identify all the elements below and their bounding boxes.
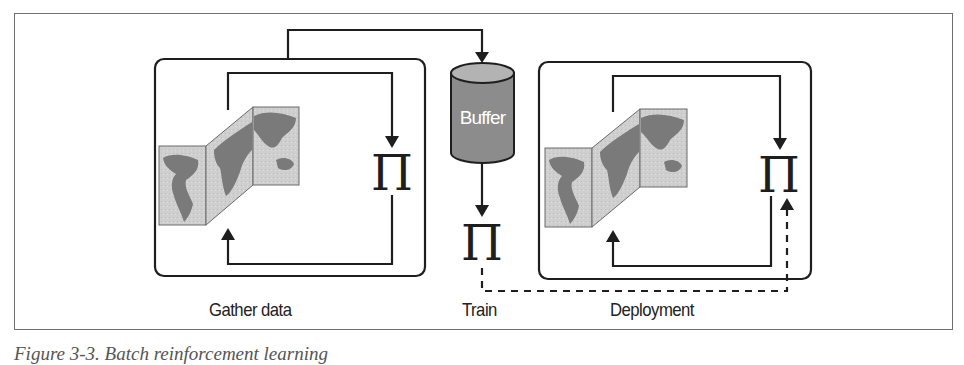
arrow-head-icon — [606, 230, 620, 242]
figure-caption: Figure 3-3. Batch reinforcement learning — [14, 343, 328, 365]
train-label: Train — [462, 299, 497, 321]
policy-pi-symbol: Π — [371, 145, 413, 201]
arrow-head-icon — [221, 228, 235, 240]
deploy-policy-pi-symbol: Π — [758, 147, 800, 203]
gather-to-buffer-edge — [288, 30, 482, 59]
gather-data-label: Gather data — [209, 299, 292, 321]
deployment-label: Deployment — [610, 299, 694, 321]
buffer-cylinder: Buffer — [451, 63, 514, 163]
gather-data-box: Π — [155, 59, 425, 276]
world-map-icon — [545, 109, 687, 227]
buffer-label: Buffer — [460, 107, 507, 128]
arrow-head-icon — [475, 52, 489, 63]
world-map-icon — [159, 107, 299, 225]
train-policy-pi-symbol: Π — [461, 215, 503, 271]
deployment-box: Π — [539, 62, 811, 279]
